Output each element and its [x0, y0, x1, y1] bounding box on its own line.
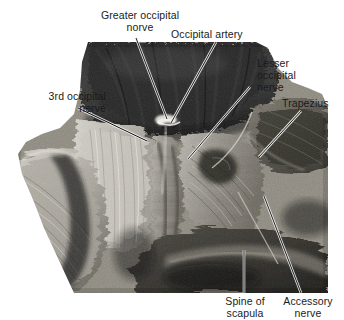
anatomical-figure: Greater occipital norve Occipital artery… [0, 0, 344, 320]
spine-of-scapula-label: Spine of scapula [214, 295, 276, 319]
third-occipital-nerve-label: 3rd occipital nerve [14, 90, 106, 114]
lesser-occipital-nerve-label: Lesser occipital nerve [257, 57, 327, 93]
trapezius-label: Trapezius [282, 97, 344, 109]
accessory-nerve-label: Accessory nerve [274, 295, 342, 319]
occipital-artery-label: Occipital artery [171, 28, 267, 40]
